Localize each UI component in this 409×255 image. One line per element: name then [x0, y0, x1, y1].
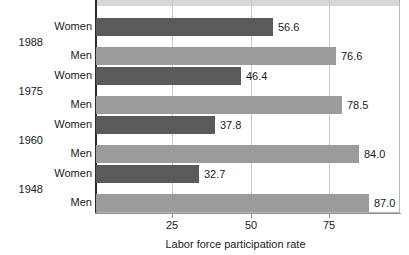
category-label-1988-women: Women — [54, 20, 92, 32]
x-axis-line — [95, 213, 401, 214]
category-label-1975-men: Men — [71, 98, 92, 110]
bar-value-1948-men: 87.0 — [374, 197, 395, 209]
bar-1975-men — [96, 96, 342, 114]
bar-value-1988-men: 76.6 — [341, 50, 362, 62]
bar-chart: 25 50 75 Labor force participation rate … — [0, 0, 409, 255]
bar-value-1988-women: 56.6 — [278, 21, 299, 33]
x-tick-label-75: 75 — [309, 219, 349, 231]
bar-value-1960-women: 37.8 — [220, 119, 241, 131]
x-axis-title: Labor force participation rate — [0, 238, 409, 250]
bar-1948-women — [96, 165, 199, 183]
bar-1975-women — [96, 67, 241, 85]
group-label-1960: 1960 — [19, 134, 43, 146]
group-label-1988: 1988 — [19, 36, 43, 48]
bar-1960-women — [96, 116, 215, 134]
bar-1988-men — [96, 47, 336, 65]
bar-1988-women — [96, 18, 273, 36]
category-label-1948-men: Men — [71, 196, 92, 208]
bar-1960-men — [96, 145, 359, 163]
x-tick-75 — [329, 213, 330, 218]
bar-value-1948-women: 32.7 — [204, 168, 225, 180]
category-label-1988-men: Men — [71, 49, 92, 61]
bar-value-1960-men: 84.0 — [364, 148, 385, 160]
bar-value-1975-men: 78.5 — [347, 99, 368, 111]
bar-1948-men — [96, 194, 369, 212]
x-tick-label-50: 50 — [231, 219, 271, 231]
bar-value-1975-women: 46.4 — [246, 70, 267, 82]
x-tick-label-25: 25 — [152, 219, 192, 231]
category-label-1960-men: Men — [71, 147, 92, 159]
group-label-1975: 1975 — [19, 85, 43, 97]
category-label-1948-women: Women — [54, 167, 92, 179]
x-tick-50 — [251, 213, 252, 218]
category-label-1960-women: Women — [54, 118, 92, 130]
group-label-1948: 1948 — [19, 183, 43, 195]
x-axis-title-text: Labor force participation rate — [165, 238, 305, 250]
category-label-1975-women: Women — [54, 69, 92, 81]
x-tick-25 — [172, 213, 173, 218]
